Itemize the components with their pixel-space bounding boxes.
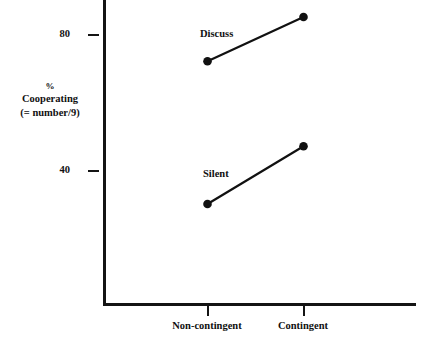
series-label-discuss: Discuss: [200, 28, 233, 40]
series-silent-point-non-contingent: [203, 200, 212, 209]
series-discuss-point-contingent: [299, 13, 308, 22]
series-label-silent: Silent: [203, 168, 229, 180]
series-silent-point-contingent: [299, 142, 308, 151]
series-discuss-point-non-contingent: [203, 57, 212, 66]
cooperation-line-chart: % Cooperating (= number/9) 80 40 Non-con…: [0, 0, 428, 341]
